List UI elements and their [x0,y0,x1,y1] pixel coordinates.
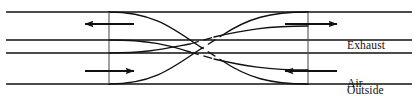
streamline-a-left [109,12,196,44]
outside-air-label: Outside Air [347,59,384,96]
streamline-curves [109,12,308,84]
exhaust-air-label-line1: Exhaust [347,39,385,52]
flow-arrows [85,24,337,71]
outside-air-label-line1: Outside [347,84,384,96]
streamline-c-left [109,52,196,84]
section-boundaries [109,12,308,84]
heat-exchanger-diagram: Exhaust Air Outside Air [0,0,418,96]
